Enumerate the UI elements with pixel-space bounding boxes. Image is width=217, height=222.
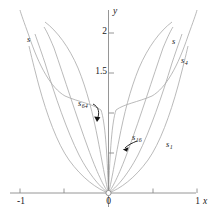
curve-s-4-mirror [35, 34, 109, 193]
y-tick-group [109, 33, 115, 153]
curve-s-4 [109, 34, 183, 193]
curve-label-s4: s4 [181, 49, 187, 67]
curve-label-s1-base: s [166, 139, 169, 149]
curve-label-s-right-base: s [172, 36, 175, 46]
curve-label-s-right: s [172, 30, 175, 48]
curve-s-limit-mirror [20, 10, 109, 193]
axes-group [10, 10, 196, 207]
x-tick-label-0: 0 [102, 196, 115, 206]
y-tick-label-2: 2 [95, 26, 107, 36]
curve-label-s1-sub: 1 [170, 144, 173, 150]
x-tick-label-1: 1 [191, 196, 204, 206]
figure-plot-container: y x 2 1.5 -1 0 1 s s s4 s1 s64 s16 [0, 0, 217, 222]
annotation-arrow-group [93, 104, 137, 148]
origin-marker-icon [106, 190, 111, 195]
curve-label-s4-sub: 4 [185, 60, 188, 66]
curve-s-64-mirror [45, 22, 109, 193]
curve-label-s64: s64 [78, 92, 87, 110]
curve-label-s4-base: s [181, 55, 184, 65]
curve-label-s16-sub: 16 [136, 137, 142, 143]
plot-svg [0, 0, 217, 222]
curve-label-s16: s16 [132, 126, 141, 144]
curve-label-s64-base: s [78, 98, 81, 108]
curve-label-s16-base: s [132, 132, 135, 142]
x-tick-label-neg1: -1 [12, 196, 30, 206]
curve-s-64 [109, 22, 173, 193]
arrowhead-s64-icon [94, 117, 100, 122]
curve-label-s-left-base: s [27, 34, 30, 44]
curve-label-s-left: s [27, 28, 30, 46]
y-tick-label-1point5: 1.5 [83, 66, 107, 76]
curve-s-16 [109, 27, 174, 193]
curve-s-limit [109, 10, 198, 193]
curve-label-s1: s1 [166, 133, 172, 151]
curve-label-s64-sub: 64 [82, 103, 88, 109]
y-axis-label: y [113, 6, 117, 16]
